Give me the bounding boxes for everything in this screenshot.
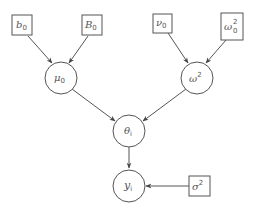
mu0-subscript: 0 [61, 77, 65, 85]
node-omegasq: ω2 [181, 62, 213, 94]
node-b0: b0 [12, 15, 32, 35]
node-sigmasq: σ2 [189, 176, 210, 196]
edge-nu0-to-omegasq [168, 33, 188, 63]
sigmasq-superscript: 2 [199, 179, 203, 187]
edge-b0-to-mu0 [28, 36, 52, 63]
omega0sq-superscript: 2 [233, 18, 237, 26]
b0-subscript: 0 [22, 24, 26, 32]
edge-B0-to-mu0 [69, 36, 88, 63]
theta-subscript: i [130, 130, 132, 138]
omegasq-symbol: ω [189, 73, 197, 84]
node-mu0: μ0 [45, 62, 77, 94]
B0-subscript: 0 [92, 24, 96, 32]
node-theta-i: θi [113, 115, 145, 147]
y-subscript: i [130, 185, 132, 193]
node-omega0sq: ω 2 0 [221, 13, 243, 40]
nu0-subscript: 0 [162, 22, 166, 30]
edge-mu0-to-theta [72, 89, 115, 121]
bayesian-model-diagram: b0 B0 ν0 ω 2 0 μ0 ω2 θi yi σ2 [0, 0, 256, 212]
node-y-i: yi [113, 170, 145, 202]
edge-omegasq-to-theta [143, 89, 186, 121]
B0-symbol: B [84, 19, 92, 30]
node-B0: B0 [82, 15, 102, 35]
svg-text:ω: ω [224, 21, 232, 32]
omega0sq-subscript: 0 [233, 27, 237, 35]
omegasq-superscript: 2 [197, 71, 201, 79]
omega0sq-symbol: ω [224, 21, 232, 32]
node-nu0: ν0 [153, 14, 172, 33]
edge-omega0sq-to-omegasq [206, 40, 226, 63]
